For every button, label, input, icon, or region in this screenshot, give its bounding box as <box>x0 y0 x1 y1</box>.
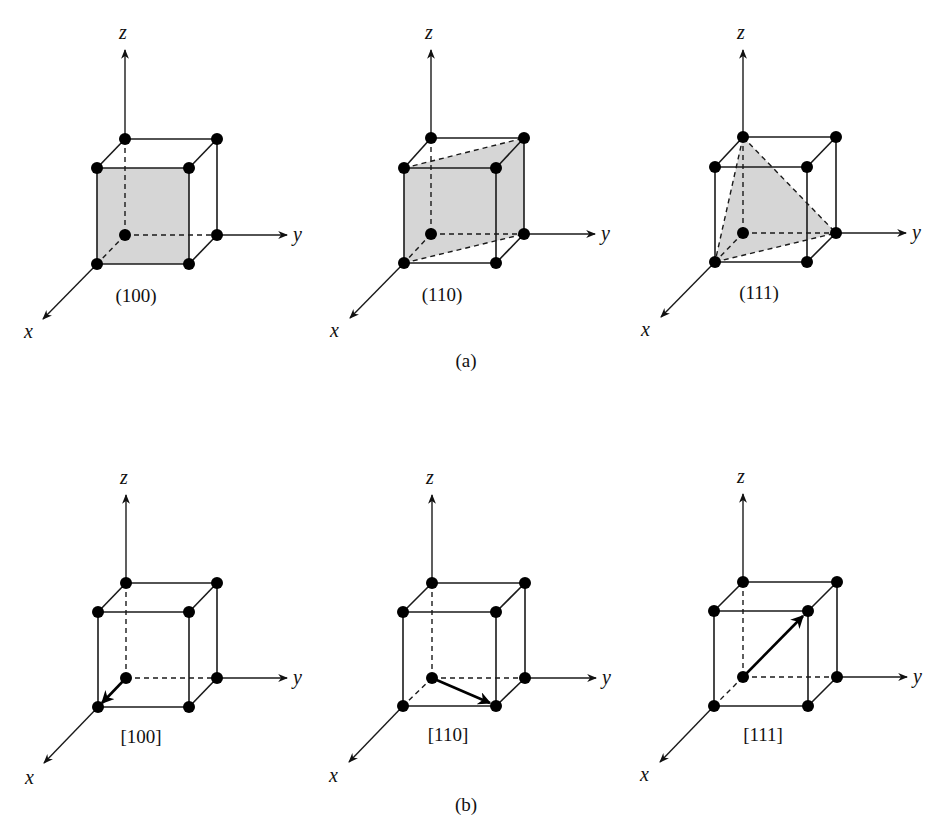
x-axis-label: x <box>640 318 650 340</box>
direction-label: [100] <box>120 726 161 747</box>
x-axis <box>660 706 714 762</box>
x-axis <box>661 262 715 317</box>
x-axis-label: x <box>639 763 649 785</box>
miller-indices-figure: z y x (100) z y x (110) <box>0 0 951 838</box>
y-axis-label: y <box>291 223 302 246</box>
cell-direction-111: z y x [111] <box>639 465 922 785</box>
y-axis-label: y <box>911 665 922 688</box>
cell-direction-100: z y x [100] <box>24 466 302 788</box>
cell-plane-110: z y x (110) <box>329 21 610 341</box>
z-axis-label: z <box>118 21 127 43</box>
z-axis-label: z <box>736 21 745 43</box>
direction-label: [110] <box>428 724 468 745</box>
cell-direction-110: z y x [110] <box>328 466 611 786</box>
x-axis-label: x <box>328 764 338 786</box>
y-axis-label: y <box>600 666 611 689</box>
x-axis <box>350 263 404 318</box>
y-axis-label: y <box>910 221 921 244</box>
x-axis <box>349 706 403 762</box>
plane-label: (110) <box>422 284 462 306</box>
cell-plane-100: z y x (100) <box>23 21 302 342</box>
cell-plane-111: z y x (111) <box>640 21 921 340</box>
x-axis-label: x <box>329 319 339 341</box>
z-axis-label: z <box>425 466 434 488</box>
x-axis-label: x <box>24 766 34 788</box>
direction-vector-110 <box>432 678 490 703</box>
y-axis-label: y <box>599 222 610 245</box>
x-axis-label: x <box>23 320 33 342</box>
x-axis <box>44 707 98 763</box>
y-axis-label: y <box>291 666 302 689</box>
plane-label: (100) <box>115 285 156 307</box>
direction-label: [111] <box>743 724 783 745</box>
plane-label: (111) <box>739 282 779 304</box>
panel-b-caption: (b) <box>455 794 477 816</box>
x-axis <box>43 264 97 319</box>
direction-vector-111 <box>743 616 803 677</box>
z-axis-label: z <box>119 466 128 488</box>
panel-a-caption: (a) <box>455 350 476 372</box>
z-axis-label: z <box>424 21 433 43</box>
z-axis-label: z <box>736 465 745 487</box>
